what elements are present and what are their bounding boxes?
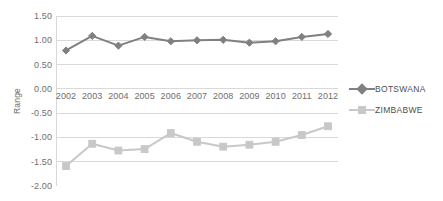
data-point-marker: [89, 140, 96, 147]
y-axis-tick-label: -0.50: [22, 108, 52, 118]
data-point-marker: [246, 141, 253, 148]
data-point-marker: [272, 138, 279, 145]
plot-area: [56, 16, 338, 186]
legend-marker: [358, 106, 366, 114]
legend-item-botswana[interactable]: BOTSWANA: [349, 78, 441, 99]
y-axis-tick-label: 0.50: [22, 60, 52, 70]
data-point-marker: [141, 146, 148, 153]
series-zimbabwe: [63, 123, 332, 170]
y-axis-title-label: Range: [12, 87, 22, 113]
data-point-marker: [220, 143, 227, 150]
y-axis-tick-label: 0.00: [22, 84, 52, 94]
legend-marker: [356, 83, 367, 94]
legend-swatch-square-icon: [349, 104, 375, 116]
y-axis-tick-label: -2.00: [22, 181, 52, 191]
y-axis-tick-labels: 1.501.000.500.00-0.50-1.00-1.50-2.00: [22, 0, 52, 201]
legend-label: ZIMBABWE: [375, 105, 423, 115]
data-point-marker: [194, 138, 201, 145]
data-point-marker: [220, 36, 227, 43]
data-point-marker: [115, 42, 122, 49]
data-point-marker: [324, 30, 331, 37]
legend-label: BOTSWANA: [375, 84, 426, 94]
data-point-marker: [298, 132, 305, 139]
data-point-marker: [298, 33, 305, 40]
y-axis-tick-label: -1.50: [22, 157, 52, 167]
series-botswana: [62, 30, 331, 54]
series-line: [66, 126, 328, 166]
data-point-marker: [325, 123, 332, 130]
data-point-marker: [63, 163, 70, 170]
chart-legend: BOTSWANAZIMBABWE: [349, 78, 441, 120]
data-point-marker: [115, 147, 122, 154]
y-axis-tick-label: 1.00: [22, 35, 52, 45]
data-point-marker: [193, 37, 200, 44]
data-point-marker: [272, 38, 279, 45]
data-point-marker: [141, 33, 148, 40]
plot-svg: [56, 16, 338, 186]
legend-item-zimbabwe[interactable]: ZIMBABWE: [349, 99, 441, 120]
line-chart: Range 1.501.000.500.00-0.50-1.00-1.50-2.…: [0, 0, 443, 201]
y-axis-tick-label: -1.00: [22, 132, 52, 142]
legend-swatch-diamond-icon: [349, 83, 375, 95]
data-point-marker: [167, 38, 174, 45]
data-point-marker: [167, 130, 174, 137]
y-axis-tick-label: 1.50: [22, 11, 52, 21]
